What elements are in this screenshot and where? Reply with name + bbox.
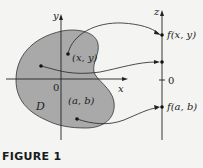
y-axis-label: y [52, 10, 59, 21]
region-label: D [35, 100, 45, 113]
origin-label: 0 [53, 82, 59, 93]
figure-caption: FIGURE 1 [2, 150, 61, 163]
arrowhead-icon [154, 60, 160, 64]
fab-label: f(a, b) [166, 101, 197, 112]
z-axis-arrow-icon [160, 10, 164, 16]
z-point-fab [160, 105, 164, 109]
arrowhead-icon [154, 105, 160, 110]
y-axis-arrow-icon [59, 14, 63, 20]
z-point-middle [160, 60, 164, 64]
figure: y x z 0 0 D (x, y) (a, b) f(x, y) f(a, b… [0, 0, 203, 168]
point-xy-label: (x, y) [72, 52, 98, 63]
x-axis-label: x [118, 83, 124, 94]
x-axis-arrow-icon [122, 77, 128, 81]
z-zero-label: 0 [168, 75, 174, 86]
fxy-label: f(x, y) [166, 29, 196, 40]
z-point-fxy [160, 33, 164, 37]
point-ab-label: (a, b) [68, 95, 95, 106]
function-mapping-diagram: y x z 0 0 D (x, y) (a, b) f(x, y) f(a, b… [0, 0, 203, 168]
z-axis-label: z [153, 6, 160, 17]
arrowhead-icon [154, 30, 161, 35]
